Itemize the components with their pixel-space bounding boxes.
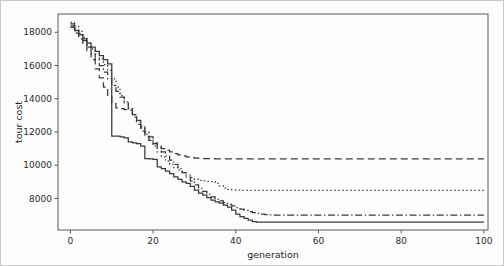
curve-dashed [70,27,483,159]
y-tick-label: 8000 [29,194,52,204]
tour-cost-convergence-chart: 80001000012000140001600018000 0204060801… [1,1,504,266]
data-curves [70,22,483,222]
x-tick-label: 0 [68,236,74,246]
curve-solid [70,26,483,222]
x-axis-tick-labels: 020406080100 [68,236,493,246]
y-tick-label: 16000 [23,61,52,71]
x-axis-title: generation [247,249,299,260]
axes-frame [58,14,488,230]
figure-container: 80001000012000140001600018000 0204060801… [0,0,504,266]
y-tick-label: 18000 [23,27,52,37]
y-tick-label: 12000 [23,127,52,137]
curve-dash-dot [70,24,483,215]
y-tick-label: 14000 [23,94,52,104]
curve-dotted [70,22,483,190]
x-tick-label: 100 [475,236,492,246]
x-tick-label: 40 [230,236,242,246]
axis-tickmarks [55,32,484,233]
y-axis-tick-labels: 80001000012000140001600018000 [23,27,52,203]
x-tick-label: 20 [147,236,159,246]
x-tick-label: 80 [395,236,407,246]
y-tick-label: 10000 [23,160,52,170]
x-tick-label: 60 [313,236,325,246]
y-axis-title: tour cost [13,101,24,143]
